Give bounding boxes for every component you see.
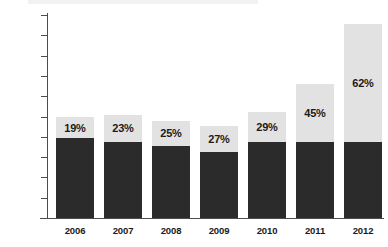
y-axis-tick-mark — [41, 76, 48, 77]
bar-percent-label: 23% — [104, 122, 142, 134]
bar-segment-lower[interactable] — [296, 142, 334, 218]
x-axis-tick-label: 2006 — [56, 225, 94, 236]
bar-segment-lower[interactable] — [56, 138, 94, 218]
x-axis-tick-label: 2007 — [104, 225, 142, 236]
y-axis-tick-mark — [41, 218, 48, 219]
bar-percent-label: 29% — [248, 121, 286, 133]
bar-percent-label: 19% — [56, 122, 94, 134]
bar-segment-upper[interactable]: 45% — [296, 84, 334, 142]
x-axis-tick-label: 2009 — [200, 225, 238, 236]
bar-percent-label: 27% — [200, 133, 238, 145]
stacked-bar-chart: 0500100015002000250030003500400045005000… — [0, 0, 388, 247]
bar-stack[interactable]: 27% — [200, 126, 238, 218]
y-axis-tick-mark — [41, 56, 48, 57]
bar-stack[interactable]: 23% — [104, 115, 142, 218]
bar-segment-lower[interactable] — [248, 142, 286, 218]
x-axis-line — [40, 218, 384, 219]
y-axis-tick-mark — [41, 96, 48, 97]
bar-segment-upper[interactable]: 27% — [200, 126, 238, 152]
bar-segment-upper[interactable]: 29% — [248, 112, 286, 142]
bar-stack[interactable]: 25% — [152, 121, 190, 218]
y-axis-tick-mark — [41, 35, 48, 36]
bar-segment-upper[interactable]: 62% — [344, 24, 382, 142]
bar-percent-label: 62% — [344, 77, 382, 89]
y-axis-tick-mark — [41, 137, 48, 138]
bar-percent-label: 25% — [152, 127, 190, 139]
y-axis-tick-mark — [41, 198, 48, 199]
y-axis-tick-mark — [41, 15, 48, 16]
bar-segment-lower[interactable] — [152, 146, 190, 218]
x-axis-tick-label: 2012 — [344, 225, 382, 236]
bar-segment-lower[interactable] — [344, 142, 382, 218]
y-axis-tick-mark — [41, 117, 48, 118]
bar-stack[interactable]: 45% — [296, 84, 334, 218]
y-axis-tick-mark — [41, 177, 48, 178]
bar-stack[interactable]: 62% — [344, 24, 382, 218]
bar-segment-upper[interactable]: 25% — [152, 121, 190, 146]
bar-stack[interactable]: 19% — [56, 117, 94, 218]
bar-stack[interactable]: 29% — [248, 112, 286, 218]
bar-segment-lower[interactable] — [104, 142, 142, 218]
bar-segment-upper[interactable]: 19% — [56, 117, 94, 138]
x-axis-tick-label: 2010 — [248, 225, 286, 236]
bar-percent-label: 45% — [296, 107, 334, 119]
x-axis-tick-label: 2008 — [152, 225, 190, 236]
bar-segment-lower[interactable] — [200, 152, 238, 218]
x-axis-tick-label: 2011 — [296, 225, 334, 236]
bar-segment-upper[interactable]: 23% — [104, 115, 142, 142]
y-axis-tick-mark — [41, 157, 48, 158]
